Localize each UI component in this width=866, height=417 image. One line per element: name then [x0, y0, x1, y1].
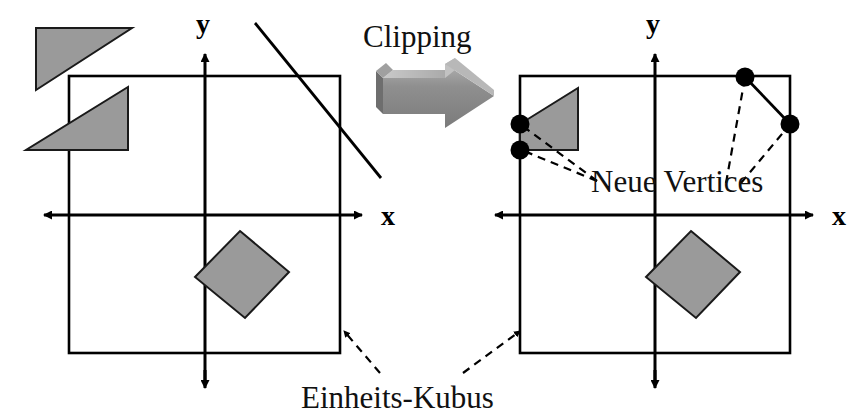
clipping-title: Clipping	[363, 19, 472, 54]
x-axis-label-right: x	[832, 200, 846, 231]
clipping-diagram-svg: x y Clipping	[0, 0, 866, 417]
clipping-arrow-top-bevel	[383, 70, 455, 78]
vertex-left-upper	[511, 115, 530, 134]
vertex-right-edge	[781, 115, 800, 134]
y-axis-label-right: y	[646, 8, 660, 39]
einheits-kubus-label: Einheits-Kubus	[301, 380, 494, 415]
clipping-arrow-side-shade	[376, 71, 383, 114]
canvas-background	[0, 0, 866, 417]
vertex-top-edge	[736, 68, 755, 87]
y-axis-label-left: y	[196, 8, 210, 39]
vertex-left-lower	[511, 141, 530, 160]
diagram-stage: x y Clipping	[0, 0, 866, 417]
x-axis-label-left: x	[381, 200, 395, 231]
neue-vertices-label: Neue Vertices	[591, 164, 763, 199]
